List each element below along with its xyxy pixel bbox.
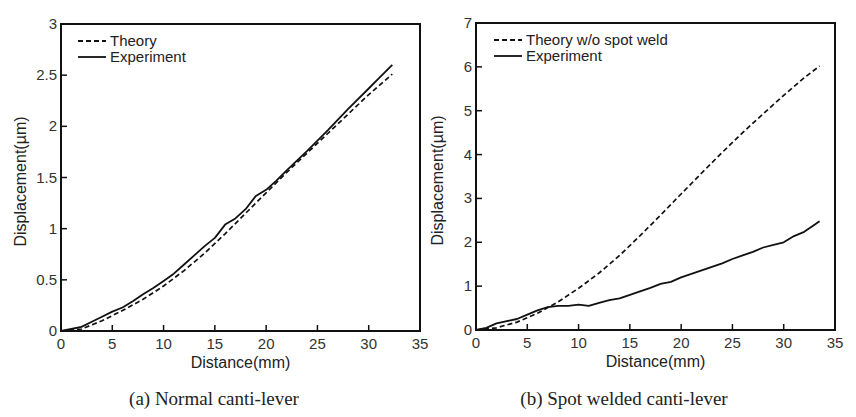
y-axis-title: Displacement(µm) bbox=[12, 116, 29, 246]
x-tick-label: 35 bbox=[412, 335, 429, 352]
x-axis-title: Distance(mm) bbox=[606, 353, 706, 370]
figure-canvas: 0510152025303500.511.522.53Distance(mm)D… bbox=[0, 0, 856, 417]
legend-label: Experiment bbox=[110, 48, 187, 65]
legend-label: Theory bbox=[110, 32, 157, 49]
plot-frame bbox=[476, 23, 835, 330]
y-tick-label: 2 bbox=[464, 233, 472, 250]
y-tick-label: 4 bbox=[464, 146, 472, 163]
x-tick-label: 10 bbox=[570, 334, 587, 351]
x-tick-label: 0 bbox=[472, 334, 480, 351]
series-line-theory bbox=[61, 74, 392, 331]
y-tick-label: 1.5 bbox=[36, 169, 57, 186]
y-tick-label: 2 bbox=[49, 117, 57, 134]
chart-panel-a: 0510152025303500.511.522.53Distance(mm)D… bbox=[12, 15, 428, 410]
x-tick-label: 20 bbox=[673, 334, 690, 351]
chart-panel-b: 0510152025303501234567Distance(mm)Displa… bbox=[429, 14, 843, 410]
y-tick-label: 2.5 bbox=[36, 66, 57, 83]
y-tick-label: 1 bbox=[464, 277, 472, 294]
x-tick-label: 10 bbox=[155, 335, 172, 352]
x-tick-label: 0 bbox=[57, 335, 65, 352]
panel-caption: (a) Normal canti-lever bbox=[129, 388, 300, 410]
x-tick-label: 20 bbox=[258, 335, 275, 352]
x-tick-label: 5 bbox=[108, 335, 116, 352]
plot-frame bbox=[61, 24, 420, 331]
y-tick-label: 5 bbox=[464, 102, 472, 119]
series-line-experiment bbox=[61, 65, 392, 331]
series-line-theory-w-o-spot-weld bbox=[476, 66, 820, 330]
x-tick-label: 15 bbox=[622, 334, 639, 351]
legend-label: Theory w/o spot weld bbox=[526, 31, 668, 48]
y-tick-label: 1 bbox=[49, 220, 57, 237]
y-axis-title: Displacement(µm) bbox=[429, 115, 446, 245]
x-tick-label: 15 bbox=[207, 335, 224, 352]
panel-caption: (b) Spot welded canti-lever bbox=[520, 388, 728, 410]
y-tick-label: 3 bbox=[49, 15, 57, 32]
series-line-experiment bbox=[476, 221, 820, 330]
legend-label: Experiment bbox=[526, 47, 603, 64]
x-tick-label: 25 bbox=[309, 335, 326, 352]
y-tick-label: 3 bbox=[464, 189, 472, 206]
y-tick-label: 7 bbox=[464, 14, 472, 31]
x-tick-label: 25 bbox=[724, 334, 741, 351]
x-tick-label: 30 bbox=[775, 334, 792, 351]
y-tick-label: 0 bbox=[49, 322, 57, 339]
y-tick-label: 0.5 bbox=[36, 271, 57, 288]
x-tick-label: 35 bbox=[827, 334, 844, 351]
y-tick-label: 0 bbox=[464, 321, 472, 338]
x-tick-label: 5 bbox=[523, 334, 531, 351]
x-axis-title: Distance(mm) bbox=[191, 354, 291, 371]
x-tick-label: 30 bbox=[360, 335, 377, 352]
y-tick-label: 6 bbox=[464, 58, 472, 75]
